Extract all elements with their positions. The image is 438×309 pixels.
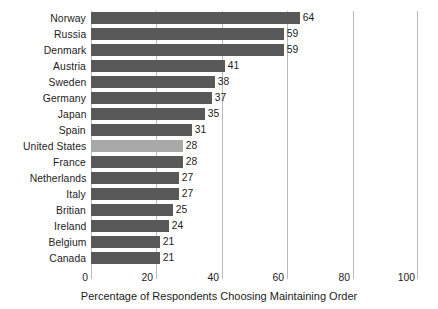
- bar-value-label: 27: [179, 187, 193, 199]
- x-tick-label: 60: [273, 270, 285, 284]
- bar: [91, 28, 284, 40]
- bar: [91, 204, 173, 216]
- bar-container: [91, 12, 300, 24]
- x-tick-label: 0: [82, 270, 88, 284]
- category-label: Denmark: [43, 43, 86, 59]
- bar-value-label: 38: [215, 75, 229, 87]
- x-axis-tick-labels: 020406080100: [0, 270, 438, 286]
- bar-value-label: 24: [169, 219, 183, 231]
- category-label: Russia: [54, 27, 86, 43]
- bar-row: Russia59: [0, 27, 438, 43]
- bar-row: Canada21: [0, 251, 438, 267]
- bar-row: Norway64: [0, 11, 438, 27]
- bar: [91, 252, 160, 264]
- bar-value-label: 21: [160, 235, 174, 247]
- category-label: Germany: [43, 91, 86, 107]
- bar-value-label: 28: [183, 139, 197, 151]
- bar-row: United States28: [0, 139, 438, 155]
- category-label: France: [53, 155, 86, 171]
- bar-row: Britian25: [0, 203, 438, 219]
- bar-container: [91, 140, 183, 152]
- x-tick-label: 20: [142, 270, 154, 284]
- bar-value-label: 41: [225, 59, 239, 71]
- bar-container: [91, 108, 205, 120]
- category-label: Britian: [56, 203, 86, 219]
- category-label: Italy: [67, 187, 86, 203]
- bar: [91, 12, 300, 24]
- bar-row: Spain31: [0, 123, 438, 139]
- bar-value-label: 64: [300, 11, 314, 23]
- category-label: Netherlands: [29, 171, 86, 187]
- bar-value-label: 37: [212, 91, 226, 103]
- bar-container: [91, 172, 179, 184]
- bar-container: [91, 156, 183, 168]
- bar-container: [91, 60, 225, 72]
- bar-container: [91, 44, 284, 56]
- category-label: Norway: [50, 11, 86, 27]
- bar-row: Netherlands27: [0, 171, 438, 187]
- category-label: Sweden: [48, 75, 86, 91]
- category-label: Spain: [59, 123, 86, 139]
- bar: [91, 188, 179, 200]
- category-label: United States: [23, 139, 86, 155]
- bar-container: [91, 236, 160, 248]
- bar-container: [91, 92, 212, 104]
- bar-row: Italy27: [0, 187, 438, 203]
- category-label: Austria: [53, 59, 86, 75]
- bar: [91, 44, 284, 56]
- bar-container: [91, 204, 173, 216]
- bar-highlighted: [91, 140, 183, 152]
- bar-value-label: 31: [192, 123, 206, 135]
- bar-container: [91, 252, 160, 264]
- bar-row: Germany37: [0, 91, 438, 107]
- bar-container: [91, 220, 169, 232]
- bar-row: Japan35: [0, 107, 438, 123]
- category-label: Canada: [49, 251, 86, 267]
- bar-row: Ireland24: [0, 219, 438, 235]
- category-label: Belgium: [48, 235, 86, 251]
- bar: [91, 76, 215, 88]
- bar-container: [91, 28, 284, 40]
- bar-value-label: 35: [205, 107, 219, 119]
- category-label: Japan: [57, 107, 86, 123]
- bar: [91, 108, 205, 120]
- bar-container: [91, 76, 215, 88]
- bar-row: Denmark59: [0, 43, 438, 59]
- category-label: Ireland: [54, 219, 86, 235]
- bar-row: France28: [0, 155, 438, 171]
- bar-value-label: 25: [173, 203, 187, 215]
- x-tick-label: 40: [207, 270, 219, 284]
- bar-container: [91, 124, 192, 136]
- bar: [91, 220, 169, 232]
- bar: [91, 236, 160, 248]
- bar-chart: Norway64Russia59Denmark59Austria41Sweden…: [0, 0, 438, 309]
- bar: [91, 156, 183, 168]
- bar-value-label: 59: [284, 43, 298, 55]
- bar-row: Sweden38: [0, 75, 438, 91]
- x-tick-label: 100: [398, 270, 415, 284]
- bar-value-label: 28: [183, 155, 197, 167]
- bar: [91, 60, 225, 72]
- bar-value-label: 27: [179, 171, 193, 183]
- bar: [91, 124, 192, 136]
- bar-row: Belgium21: [0, 235, 438, 251]
- bar-row: Austria41: [0, 59, 438, 75]
- x-axis-title: Percentage of Respondents Choosing Maint…: [0, 289, 438, 303]
- bar-rows: Norway64Russia59Denmark59Austria41Sweden…: [0, 11, 438, 267]
- bar: [91, 172, 179, 184]
- bar: [91, 92, 212, 104]
- bar-value-label: 59: [284, 27, 298, 39]
- bar-container: [91, 188, 179, 200]
- x-tick-label: 80: [338, 270, 350, 284]
- bar-value-label: 21: [160, 251, 174, 263]
